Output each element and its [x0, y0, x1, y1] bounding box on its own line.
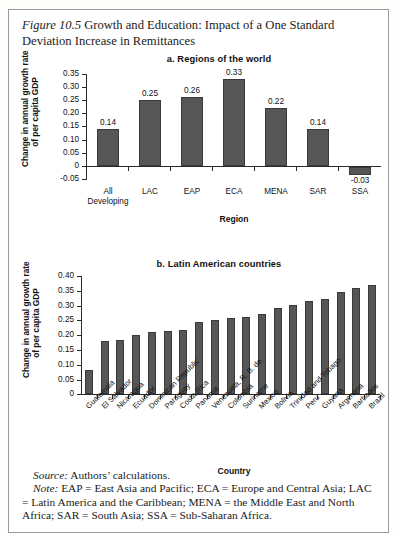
panel-b-ytick-label: 0.30 — [42, 301, 74, 310]
panel-a-ytick-label: 0.10 — [47, 135, 79, 144]
bar-lac — [139, 100, 161, 166]
panel-a-y-axis-label-line1: Change in annual growth rate — [20, 50, 30, 167]
panel-b-ytick — [77, 291, 82, 292]
panel-a-ytick-label: 0.05 — [47, 148, 79, 157]
bar-value-ssa: -0.03 — [340, 176, 380, 185]
panel-a-ytick-label: 0.35 — [47, 69, 79, 78]
panel-a-title: a. Regions of the world — [69, 54, 369, 64]
chart-panel-b: b. Latin American countries Change in an… — [9, 253, 389, 503]
panel-a-ytick — [82, 100, 87, 101]
panel-a-ytick — [82, 153, 87, 154]
panel-a-xtick — [296, 167, 297, 171]
panel-a-xtick — [212, 167, 213, 171]
bar-venezuela-r-b-de — [211, 320, 219, 394]
panel-a-ytick — [82, 179, 87, 180]
panel-a-x-axis-label: Region — [89, 214, 379, 224]
panel-a-xtick — [128, 167, 129, 171]
panel-b-ytick — [77, 350, 82, 351]
note-text: EAP = East Asia and Pacific; ECA = Europ… — [22, 482, 372, 521]
panel-a-ytick — [82, 166, 87, 167]
panel-a-xtick — [254, 167, 255, 171]
bar-eca — [223, 79, 245, 166]
bar-guatemala — [85, 370, 93, 394]
panel-b-ytick-label: 0.40 — [42, 271, 74, 280]
panel-a-ytick — [82, 126, 87, 127]
bar-value-all-developing: 0.14 — [88, 118, 128, 127]
panel-a-ytick-label: 0.30 — [47, 82, 79, 91]
panel-b-ytick-label: 0.10 — [42, 360, 74, 369]
bar-barbados — [352, 288, 360, 394]
figure-caption: Figure 10.5 Growth and Education: Impact… — [22, 18, 374, 49]
bar-mena — [265, 108, 287, 166]
bar-value-sar: 0.14 — [298, 118, 338, 127]
panel-a-ytick — [82, 87, 87, 88]
panel-b-ytick — [77, 365, 82, 366]
panel-b-ytick-label: 0.05 — [42, 375, 74, 384]
panel-b-ytick — [77, 394, 82, 395]
bar-brazil — [368, 285, 376, 394]
panel-b-y-axis-label-line2: of per capita GDP — [31, 288, 41, 358]
panel-b-ytick — [77, 380, 82, 381]
bar-bolivia — [274, 308, 282, 394]
bar-value-lac: 0.25 — [130, 89, 170, 98]
bar-ssa — [349, 167, 371, 175]
note-label: Note: — [33, 482, 58, 494]
panel-a-ytick-label: 0.25 — [47, 95, 79, 104]
source-label: Source: — [33, 469, 68, 481]
abbreviation-note: Note: EAP = East Asia and Pacific; ECA =… — [22, 482, 378, 523]
bar-sar — [307, 129, 329, 166]
bar-value-mena: 0.22 — [256, 97, 296, 106]
panel-b-ytick-label: 0.35 — [42, 286, 74, 295]
chart-panel-a: a. Regions of the world Change in annual… — [9, 54, 389, 250]
panel-a-y-axis — [86, 74, 87, 180]
figure-page: Figure 10.5 Growth and Education: Impact… — [0, 0, 398, 534]
panel-b-title: b. Latin American countries — [69, 259, 369, 269]
panel-a-xtick — [338, 167, 339, 171]
panel-a-y-axis-label: Change in annual growth rate of per capi… — [20, 57, 40, 167]
panel-a-xtick — [170, 167, 171, 171]
panel-b-ytick-label: 0.20 — [42, 330, 74, 339]
panel-b-y-axis-label: Change in annual growth rate of per capi… — [21, 268, 41, 378]
panel-a-ytick-label: -0.05 — [42, 174, 79, 183]
panel-b-ytick-label: 0.25 — [42, 315, 74, 324]
panel-a-ytick — [82, 113, 87, 114]
source-text: Authors’ calculations. — [68, 469, 170, 481]
panel-a-category-label-ssa: SSA — [333, 187, 387, 197]
panel-a-ytick — [82, 74, 87, 75]
bar-trinidad-and-tobago — [289, 305, 297, 394]
panel-b-ytick — [77, 320, 82, 321]
cat-line: All — [103, 187, 112, 196]
panel-b-y-axis-label-line1: Change in annual growth rate — [21, 261, 31, 378]
source-note: Source: Authors’ calculations. — [22, 469, 378, 483]
bar-argentina — [337, 292, 345, 394]
panel-a-ytick — [82, 140, 87, 141]
bar-eap — [181, 97, 203, 166]
panel-b-ytick — [77, 306, 82, 307]
bar-all-developing — [97, 129, 119, 166]
figure-frame: Figure 10.5 Growth and Education: Impact… — [8, 9, 389, 533]
panel-a-ytick-label: 0 — [47, 161, 79, 170]
panel-a-zero-line — [86, 166, 381, 167]
panel-a-ytick-label: 0.15 — [47, 121, 79, 130]
panel-a-y-axis-label-line2: of per capita GDP — [30, 77, 40, 147]
panel-b-ytick-label: 0.15 — [42, 345, 74, 354]
panel-b-ytick — [77, 276, 82, 277]
cat-line: Developing — [88, 197, 129, 206]
bar-value-eap: 0.26 — [172, 86, 212, 95]
panel-b-ytick — [77, 335, 82, 336]
panel-b-ytick-label: 0 — [42, 389, 74, 398]
bar-value-eca: 0.33 — [214, 68, 254, 77]
figure-number: Figure 10.5 — [22, 18, 81, 32]
panel-a-ytick-label: 0.20 — [47, 108, 79, 117]
figure-notes: Source: Authors’ calculations. Note: EAP… — [22, 469, 378, 523]
